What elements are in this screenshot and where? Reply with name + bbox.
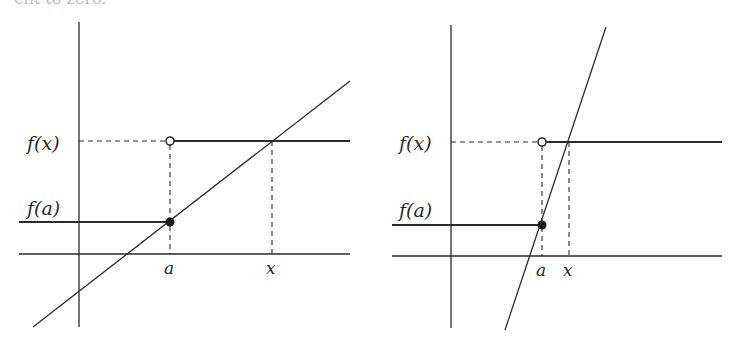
a-tick-label-right: a xyxy=(536,260,546,280)
diagram-right xyxy=(392,25,722,330)
fa-label-left: f(a) xyxy=(25,197,60,219)
fx-label-right: f(x) xyxy=(397,132,432,154)
fa-label-right: f(a) xyxy=(397,199,432,221)
open-point xyxy=(538,138,546,146)
linear-function-line xyxy=(33,81,350,327)
closed-point xyxy=(166,218,175,227)
diagram-left xyxy=(19,22,350,327)
a-tick-label-left: a xyxy=(164,258,174,278)
closed-point xyxy=(538,221,547,230)
x-tick-label-left: x xyxy=(266,258,276,278)
linear-function-line xyxy=(505,27,606,330)
open-point xyxy=(166,137,174,145)
cropped-top-text: ent to zero. xyxy=(14,0,106,8)
fx-label-left: f(x) xyxy=(25,132,60,154)
x-tick-label-right: x xyxy=(563,260,573,280)
figure: ent to zero. f(x) f(a) a x f(x) f(a) a x xyxy=(0,0,736,345)
